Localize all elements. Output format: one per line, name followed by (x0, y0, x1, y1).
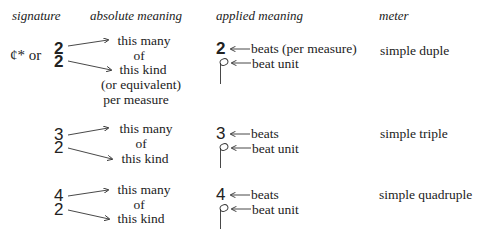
absolute-line: per measure (96, 93, 176, 107)
absolute-line: of (104, 49, 174, 63)
signature-bottom: 2 (54, 203, 63, 217)
applied-top-number: 3 (216, 127, 225, 141)
absolute-line: of (104, 198, 174, 212)
meter-label: simple triple (380, 127, 448, 141)
applied-top-label: beats (per measure) (251, 42, 357, 56)
signature-bottom: 2 (54, 55, 63, 69)
meter-label: simple duple (380, 44, 449, 58)
applied-top-number: 4 (216, 188, 225, 202)
absolute-line: this kind (110, 152, 180, 166)
absolute-line: this many (106, 122, 186, 136)
signature-bottom: 2 (54, 141, 63, 155)
absolute-line: of (106, 137, 176, 151)
applied-top-label: beats (251, 188, 279, 202)
meter-label: simple quadruple (379, 188, 472, 202)
absolute-line: this many (104, 34, 184, 48)
applied-top-number: 2 (216, 42, 225, 56)
absolute-line: this kind (108, 63, 178, 77)
absolute-line: this kind (106, 212, 176, 226)
applied-bottom-label: beat unit (252, 57, 299, 71)
absolute-line: this many (104, 183, 184, 197)
applied-bottom-label: beat unit (252, 142, 299, 156)
cut-time-symbol-or: ¢* or (10, 48, 41, 62)
absolute-line: (or equivalent) (96, 78, 186, 92)
applied-top-label: beats (251, 127, 279, 141)
applied-bottom-label: beat unit (252, 203, 299, 217)
